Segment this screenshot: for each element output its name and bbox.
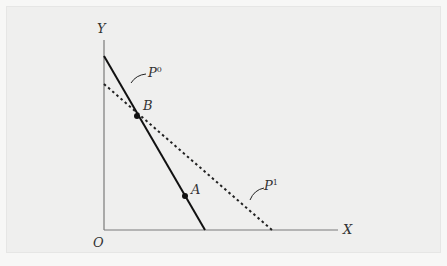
- point-a-label: A: [191, 183, 200, 196]
- point-b: [134, 113, 140, 119]
- p1-name: P: [264, 178, 273, 193]
- p0-superscript: 0: [157, 65, 162, 74]
- p1-superscript: 1: [273, 178, 278, 187]
- line-p1: [104, 84, 272, 230]
- p1-leader-arrow-icon: [250, 188, 264, 200]
- point-a: [182, 193, 188, 199]
- x-axis-label: X: [343, 223, 352, 236]
- line-p0: [104, 56, 205, 230]
- y-axis-label: Y: [97, 22, 106, 35]
- p0-leader-arrow-icon: [131, 74, 146, 83]
- origin-label: O: [93, 236, 104, 249]
- diagram-canvas: [0, 0, 447, 266]
- p0-name: P: [148, 65, 157, 80]
- p1-label: P1: [264, 179, 278, 192]
- point-b-label: B: [143, 99, 153, 112]
- p0-label: P0: [148, 66, 162, 79]
